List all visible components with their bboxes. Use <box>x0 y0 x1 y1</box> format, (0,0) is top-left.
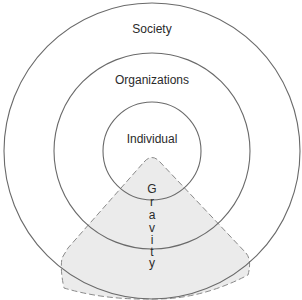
society-label: Society <box>132 22 171 36</box>
organizations-label: Organizations <box>115 73 189 87</box>
gravity-letter-y: y <box>149 256 155 270</box>
gravity-region <box>61 158 249 300</box>
concentric-circles-diagram: Society Organizations Individual G r a v… <box>0 0 302 300</box>
gravity-letter-g: G <box>147 182 156 196</box>
gravity-letter-r: r <box>150 195 154 209</box>
gravity-letter-a: a <box>149 208 156 222</box>
individual-label: Individual <box>127 132 178 146</box>
